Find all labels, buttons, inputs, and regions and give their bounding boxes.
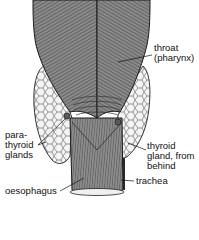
label-throat-line2: (pharynx) (154, 53, 194, 63)
label-parathyroid-line3: glands (5, 150, 34, 160)
label-oesophagus: oesophagus (5, 186, 57, 196)
label-oesophagus-line1: oesophagus (5, 186, 57, 196)
label-trachea-line1: trachea (136, 176, 168, 186)
label-thyroid-line3: behind (147, 161, 195, 171)
parathyroid-gland-right (115, 119, 121, 125)
label-throat: throat (pharynx) (154, 43, 194, 63)
label-parathyroid: para- thyroid glands (5, 130, 34, 160)
label-trachea: trachea (136, 176, 168, 186)
label-thyroid: thyroid gland, from behind (147, 141, 195, 171)
parathyroid-gland-left (64, 113, 70, 119)
